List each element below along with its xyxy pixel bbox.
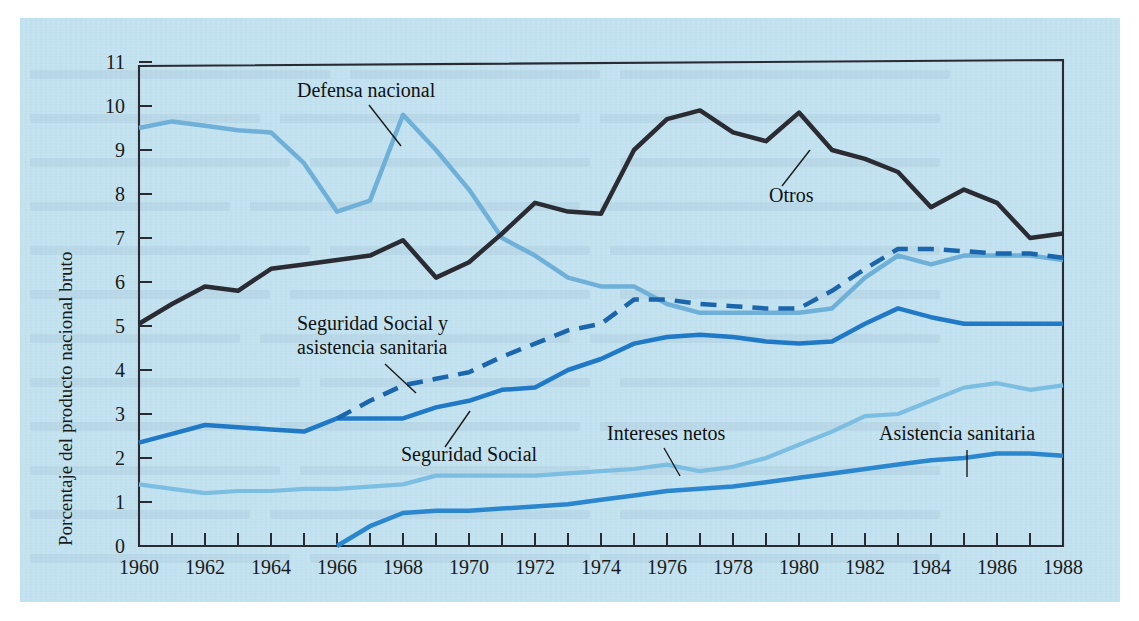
x-tick-label: 1960 <box>119 556 159 578</box>
leader-seguridad-social-asistencia <box>385 364 416 393</box>
label-otros: Otros <box>769 184 814 206</box>
y-tick-label: 11 <box>106 51 125 73</box>
x-tick-label: 1986 <box>977 556 1017 578</box>
y-tick-label: 3 <box>115 403 125 425</box>
y-tick-label: 1 <box>115 491 125 513</box>
x-tick-label: 1982 <box>845 556 885 578</box>
y-tick-label: 4 <box>115 359 125 381</box>
x-tick-label: 1976 <box>647 556 687 578</box>
x-tick-label: 1972 <box>515 556 555 578</box>
x-tick-label: 1988 <box>1043 556 1083 578</box>
x-tick-label: 1974 <box>581 556 621 578</box>
leader-intereses-netos <box>664 448 680 476</box>
leader-otros <box>782 150 810 186</box>
x-tick-label: 1966 <box>317 556 357 578</box>
leader-seguridad-social <box>445 411 470 447</box>
line-chart: 0123456789101119601962196419661968197019… <box>0 0 1139 621</box>
x-tick-label: 1968 <box>383 556 423 578</box>
y-tick-label: 2 <box>115 447 125 469</box>
series-line-asistencia-sanitaria <box>337 454 1063 546</box>
series-line-otros <box>139 110 1063 323</box>
y-tick-label: 6 <box>115 271 125 293</box>
label-asistencia-sanitaria: Asistencia sanitaria <box>879 422 1035 444</box>
label-seguridad-social-asistencia-line1: Seguridad Social y <box>297 312 448 335</box>
y-tick-label: 9 <box>115 139 125 161</box>
series-group <box>139 110 1063 546</box>
leader-defensa-nacional <box>369 105 401 146</box>
x-tick-label: 1962 <box>185 556 225 578</box>
y-tick-label: 5 <box>115 315 125 337</box>
label-defensa-nacional: Defensa nacional <box>297 79 436 101</box>
y-tick-label: 8 <box>115 183 125 205</box>
x-tick-label: 1964 <box>251 556 291 578</box>
x-tick-label: 1984 <box>911 556 951 578</box>
y-tick-label: 7 <box>115 227 125 249</box>
chart-container: 0123456789101119601962196419661968197019… <box>0 0 1139 621</box>
figure-page: 0123456789101119601962196419661968197019… <box>0 0 1139 621</box>
x-tick-label: 1978 <box>713 556 753 578</box>
y-axis-title: Porcentaje del producto nacional bruto <box>55 252 76 546</box>
x-tick-label: 1980 <box>779 556 819 578</box>
label-seguridad-social-asistencia-line2: asistencia sanitaria <box>297 336 448 358</box>
y-tick-label: 0 <box>115 535 125 557</box>
y-tick-label: 10 <box>105 95 125 117</box>
label-intereses-netos: Intereses netos <box>607 422 726 444</box>
x-tick-label: 1970 <box>449 556 489 578</box>
label-seguridad-social: Seguridad Social <box>401 443 538 466</box>
